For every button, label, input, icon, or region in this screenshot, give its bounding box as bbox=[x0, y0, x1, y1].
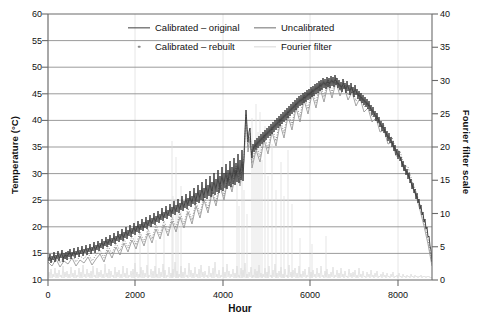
xtick-6000: 6000 bbox=[300, 290, 320, 300]
legend-line-icon-uncalibrated bbox=[254, 23, 276, 33]
legend-label-fourier-filter: Fourier filter bbox=[281, 41, 332, 52]
legend-dot-icon-calibrated-rebuilt bbox=[128, 42, 150, 52]
legend-item-fourier-filter: Fourier filter bbox=[254, 41, 376, 52]
legend-label-calibrated-original: Calibrated – original bbox=[155, 22, 240, 33]
x-axis-title: Hour bbox=[228, 303, 252, 314]
chart-legend: Calibrated – original Uncalibrated Calib… bbox=[128, 18, 376, 56]
legend-label-uncalibrated: Uncalibrated bbox=[281, 22, 334, 33]
legend-item-uncalibrated: Uncalibrated bbox=[254, 22, 376, 33]
legend-item-calibrated-original: Calibrated – original bbox=[128, 22, 250, 33]
legend-item-calibrated-rebuilt: Calibrated – rebuilt bbox=[128, 41, 250, 52]
xtick-0: 0 bbox=[45, 290, 50, 300]
y-axis-title-left: Temperature (°C) bbox=[9, 116, 20, 194]
legend-line-icon-fourier-filter bbox=[254, 42, 276, 52]
chart-figure: 10 15 20 25 30 35 40 45 50 55 60 0 5 10 … bbox=[0, 0, 480, 323]
legend-label-calibrated-rebuilt: Calibrated – rebuilt bbox=[155, 41, 235, 52]
xtick-2000: 2000 bbox=[125, 290, 145, 300]
xtick-4000: 4000 bbox=[213, 290, 233, 300]
y-axis-title-right: Fourier filter scale bbox=[461, 110, 472, 194]
xtick-8000: 8000 bbox=[388, 290, 408, 300]
legend-line-icon-calibrated-original bbox=[128, 23, 150, 33]
